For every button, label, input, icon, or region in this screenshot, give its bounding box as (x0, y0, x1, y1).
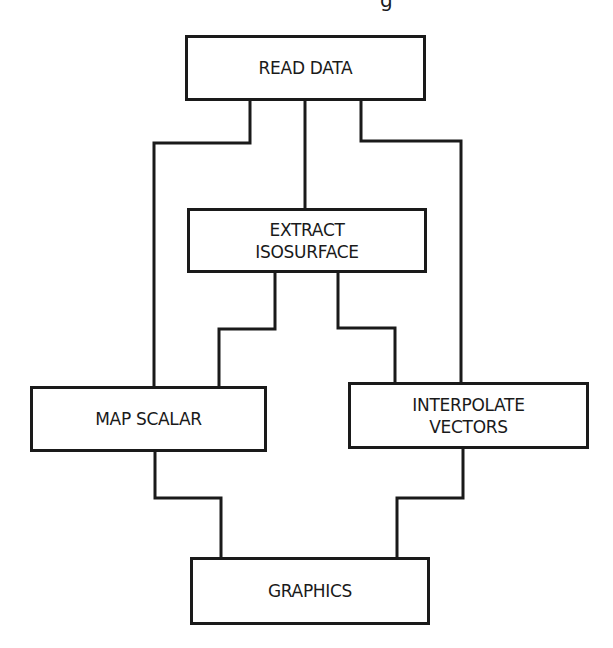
edge-map_scalar-to-graphics (155, 452, 221, 557)
node-interpolate-vectors: INTERPOLATE VECTORS (348, 382, 589, 449)
node-map-scalar: MAP SCALAR (30, 386, 267, 452)
node-read-data: READ DATA (185, 35, 426, 101)
edge-extract_isosurface-to-interpolate_vectors (338, 273, 395, 382)
node-graphics: GRAPHICS (190, 557, 430, 625)
flowchart-canvas: g READ DATA EXTRACT ISOSURFACE MAP SCALA… (0, 0, 613, 648)
edge-extract_isosurface-to-map_scalar (219, 273, 275, 386)
edge-interpolate_vectors-to-graphics (397, 449, 463, 557)
node-extract-isosurface: EXTRACT ISOSURFACE (187, 208, 427, 273)
